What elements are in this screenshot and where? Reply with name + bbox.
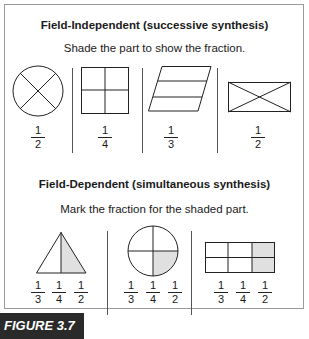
rectangle-sixths-shaded-shape[interactable]	[205, 242, 275, 273]
divider	[107, 231, 108, 315]
triangle-half-shaded-shape[interactable]	[36, 232, 87, 274]
section2-instruction: Mark the fraction for the shaded part.	[0, 203, 309, 215]
parallelogram-thirds-shape[interactable]	[148, 66, 212, 112]
option-1-4[interactable]: 1 4	[236, 280, 250, 305]
circle-diagonals-shape[interactable]	[12, 66, 64, 118]
option-1-3[interactable]: 1 3	[31, 280, 45, 305]
option-1-2[interactable]: 1 2	[74, 280, 88, 305]
fraction-1-3: 1 3	[164, 125, 178, 150]
option-1-4[interactable]: 1 4	[146, 280, 160, 305]
divider	[142, 68, 143, 153]
fraction-1-2: 1 2	[251, 125, 265, 150]
fraction-1-2: 1 2	[31, 125, 45, 150]
section1-instruction: Shade the part to show the fraction.	[0, 42, 309, 54]
divider	[217, 68, 218, 153]
divider	[72, 68, 73, 153]
option-1-4[interactable]: 1 4	[52, 280, 66, 305]
divider	[191, 231, 192, 315]
figure-label: FIGURE 3.7	[0, 313, 84, 339]
square-quarters-shape[interactable]	[81, 67, 129, 114]
section2-title: Field-Dependent (simultaneous synthesis)	[0, 178, 309, 190]
fraction-1-4: 1 4	[98, 125, 112, 150]
circle-quarter-shaded-shape[interactable]	[127, 226, 179, 278]
option-1-2[interactable]: 1 2	[258, 280, 272, 305]
option-1-3[interactable]: 1 3	[124, 280, 138, 305]
rectangle-diagonals-shape[interactable]	[228, 82, 291, 112]
option-1-3[interactable]: 1 3	[214, 280, 228, 305]
section1-title: Field-Independent (successive synthesis)	[0, 19, 309, 31]
option-1-2[interactable]: 1 2	[168, 280, 182, 305]
